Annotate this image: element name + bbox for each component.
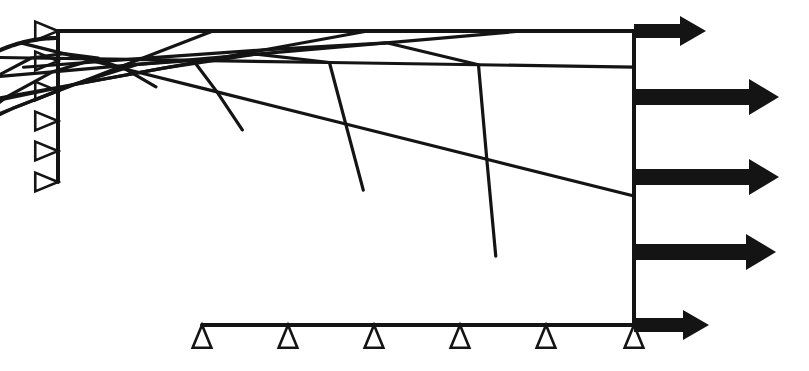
roller-support-icon [35,173,58,192]
fem-mesh-figure [0,0,809,371]
mesh-circumferential-line [23,43,495,256]
fem-mesh-canvas [0,0,809,371]
roller-support-icon [365,325,384,348]
tension-load-arrow [634,159,779,195]
mesh-radial-line [0,31,213,145]
bottom-edge-roller-supports [193,325,644,348]
roller-support-icon [193,325,212,348]
right-edge-load-arrows [634,16,779,340]
tension-load-arrow [634,79,779,115]
roller-support-icon [35,112,58,131]
mesh-interior-lines [0,31,634,256]
tension-load-arrow [634,310,709,340]
tension-load-arrow [634,234,776,270]
roller-support-icon [451,325,470,348]
roller-support-icon [35,142,58,161]
tension-load-arrow [634,16,706,46]
roller-support-icon [537,325,556,348]
roller-support-icon [279,325,298,348]
